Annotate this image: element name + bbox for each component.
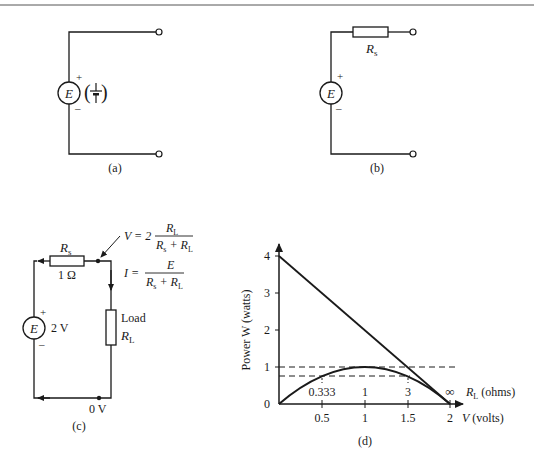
i-equation: I = E Rs + RL (123, 258, 184, 291)
y-ticks: 4 3 2 1 0 (264, 249, 279, 411)
svg-text:∞: ∞ (445, 384, 454, 399)
y-axis-label: Power W (watts) (239, 290, 253, 371)
pointer-arrow (101, 236, 120, 257)
caption-b: (b) (370, 161, 384, 175)
svg-text:2: 2 (264, 323, 270, 337)
node-ground (97, 396, 101, 400)
source-value: 2 V (51, 321, 69, 335)
resistor-rs-icon (353, 27, 388, 37)
svg-text:1: 1 (264, 360, 270, 374)
terminal-top (410, 29, 416, 35)
panel-d-chart: 4 3 2 1 0 Power W (watts) 0.5 1 1.5 2 V … (239, 244, 515, 448)
panel-a: E + – ( ) (a) (58, 29, 162, 175)
wire-left-bottom (34, 339, 38, 398)
svg-text:I =: I = (123, 266, 139, 280)
svg-text:V = 2: V = 2 (124, 229, 151, 243)
svg-text:0: 0 (264, 397, 270, 411)
source-label: E (326, 86, 335, 101)
terminal-bottom (410, 151, 416, 157)
resistor-load-icon (106, 310, 116, 345)
rs-label: Rs (365, 41, 378, 58)
minus-sign: – (74, 102, 81, 114)
rl-label: RL (120, 328, 134, 345)
source-label: E (64, 86, 73, 101)
minus-sign: – (335, 102, 342, 114)
source-label: E (29, 321, 38, 336)
figure-canvas: E + – ( ) (a) E + – Rs (b) (0, 0, 534, 452)
series-total-power (279, 256, 450, 404)
load-label: Load (121, 311, 146, 325)
svg-text:RL: RL (165, 221, 178, 237)
caption-a: (a) (108, 161, 121, 175)
battery-icon: ( ) (84, 81, 108, 104)
wire-bottom (331, 104, 410, 154)
svg-text:0.333: 0.333 (309, 385, 336, 399)
terminal-bottom (156, 151, 162, 157)
terminal-top (156, 29, 162, 35)
svg-text:2: 2 (447, 411, 453, 425)
wire-bottom (69, 104, 156, 154)
svg-text:1: 1 (362, 385, 368, 399)
svg-text:): ) (101, 81, 108, 104)
svg-text:Rs + RL: Rs + RL (145, 275, 183, 291)
v-equation: V = 2 RL Rs + RL (124, 221, 193, 254)
panel-c: E + – 2 V Rs 1 Ω Load RL 0 V V = 2 RL Rs… (23, 221, 193, 433)
svg-text:3: 3 (264, 286, 270, 300)
svg-text:1: 1 (362, 411, 368, 425)
svg-text:(: ( (84, 81, 91, 104)
svg-text:0.5: 0.5 (315, 411, 330, 425)
wire-left-top (34, 261, 37, 317)
svg-text:Rs + RL: Rs + RL (155, 238, 193, 254)
svg-text:3: 3 (405, 385, 411, 399)
svg-text:1.5: 1.5 (401, 411, 416, 425)
panel-b: E + – Rs (b) (320, 27, 416, 175)
wire-bottom (38, 345, 111, 398)
ground-label: 0 V (89, 402, 107, 416)
svg-text:4: 4 (264, 249, 270, 263)
rs-label: Rs (59, 240, 72, 257)
node-v (96, 259, 100, 263)
svg-text:E: E (166, 258, 175, 272)
minus-sign: – (38, 338, 45, 350)
plus-sign: + (337, 70, 343, 82)
plus-sign: + (40, 306, 46, 318)
plus-sign: + (76, 71, 82, 83)
rl-axis-label: RL (ohms) (465, 385, 515, 401)
rs-value: 1 Ω (58, 268, 76, 282)
x-axis-label: V (volts) (462, 411, 504, 425)
resistor-rs-icon (50, 256, 84, 266)
caption-c: (c) (72, 419, 85, 433)
caption-d: (d) (358, 434, 372, 448)
wire-top-right (84, 261, 111, 310)
